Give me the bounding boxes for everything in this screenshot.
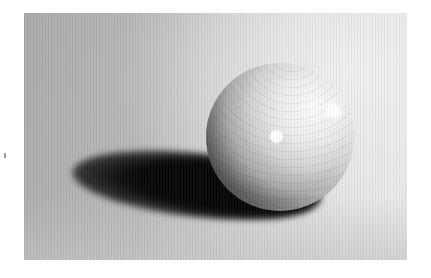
photograph xyxy=(24,13,407,260)
edge-mark xyxy=(4,153,6,158)
white-dot-front xyxy=(270,130,283,143)
white-dot-highlight xyxy=(327,104,340,117)
